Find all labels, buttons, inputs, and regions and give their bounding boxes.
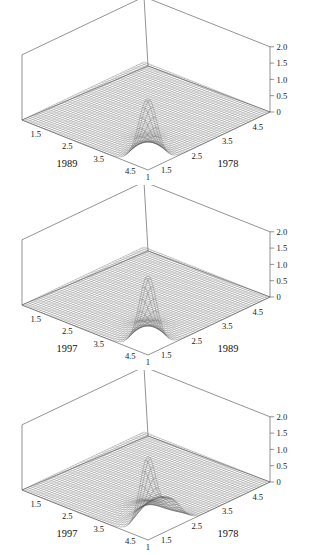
y-tick-label: 2.5 [191,336,202,346]
y-tick-label: 4.5 [252,492,263,502]
panel-1989-1978: 00.51.01.52.01.52.53.54.519894.53.52.51.… [0,0,309,185]
y-tick-label: 3.5 [222,506,233,516]
y-axis-title: 1989 [218,343,239,354]
panel-1997-1978: 00.51.01.52.01.52.53.54.519974.53.52.51.… [0,370,309,555]
y-axis-title: 1978 [218,528,239,539]
surface-plot-figure: 00.51.01.52.01.52.53.54.519894.53.52.51.… [0,0,309,555]
origin-label: 1 [146,542,150,552]
surface-wireframe [22,432,270,527]
x-tick-label: 2.5 [62,511,73,521]
panel-1997-1989: 00.51.01.52.01.52.53.54.519974.53.52.51.… [0,185,309,370]
z-tick-label: 0.5 [277,276,288,286]
z-tick-label: 0.5 [277,91,288,101]
z-tick-label: 2.0 [277,227,288,237]
y-tick-label: 3.5 [222,321,233,331]
origin-label: 1 [146,172,150,182]
z-tick-label: 0.5 [277,461,288,471]
z-tick-label: 2.0 [277,42,288,52]
x-tick-label: 4.5 [125,351,136,361]
y-tick-label: 3.5 [222,136,233,146]
z-tick-label: 1.5 [277,58,288,68]
y-tick-label: 1.5 [161,535,172,545]
origin-label: 1 [146,357,150,367]
surface-wireframe [22,247,270,342]
surface-plot-3: 00.51.01.52.01.52.53.54.519974.53.52.51.… [0,370,309,555]
z-axis: 00.51.01.52.0 [270,42,287,117]
z-axis: 00.51.01.52.0 [270,227,287,302]
surface-plot-2: 00.51.01.52.01.52.53.54.519974.53.52.51.… [0,185,309,370]
y-tick-label: 4.5 [252,122,263,132]
z-tick-label: 0 [277,107,281,117]
surface-plot-1: 00.51.01.52.01.52.53.54.519894.53.52.51.… [0,0,309,185]
right-axis: 4.53.52.51.51989 [161,307,263,361]
right-axis: 4.53.52.51.51978 [161,492,263,546]
x-tick-label: 2.5 [62,326,73,336]
x-tick-label: 3.5 [93,339,104,349]
x-tick-label: 1.5 [30,129,41,139]
z-tick-label: 1.0 [277,260,288,270]
y-axis-title: 1978 [218,158,239,169]
x-tick-label: 1.5 [30,499,41,509]
x-tick-label: 4.5 [125,166,136,176]
z-tick-label: 0 [277,292,281,302]
y-tick-label: 1.5 [161,165,172,175]
y-tick-label: 2.5 [191,151,202,161]
z-tick-label: 0 [277,477,281,487]
x-tick-label: 4.5 [125,536,136,546]
x-tick-label: 3.5 [93,154,104,164]
x-axis-title: 1997 [57,528,78,539]
x-tick-label: 1.5 [30,314,41,324]
x-axis-title: 1997 [57,343,78,354]
z-tick-label: 1.5 [277,428,288,438]
z-axis: 00.51.01.52.0 [270,412,287,487]
surface-wireframe [22,62,270,157]
y-tick-label: 2.5 [191,521,202,531]
y-tick-label: 4.5 [252,307,263,317]
x-axis-title: 1989 [57,158,78,169]
x-tick-label: 3.5 [93,524,104,534]
x-tick-label: 2.5 [62,141,73,151]
z-tick-label: 1.5 [277,243,288,253]
z-tick-label: 1.0 [277,75,288,85]
z-tick-label: 1.0 [277,445,288,455]
z-tick-label: 2.0 [277,412,288,422]
y-tick-label: 1.5 [161,350,172,360]
left-axis: 1.52.53.54.51989 [30,129,135,177]
